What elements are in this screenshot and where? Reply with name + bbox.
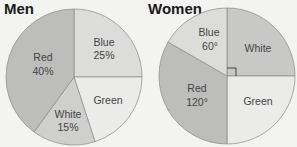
men-label-red-name: Red [33, 51, 52, 63]
men-label-white-name: White [55, 108, 82, 120]
women-label-green-name: Green [243, 95, 272, 107]
women-label-blue-name: Blue [198, 26, 219, 38]
pie-charts: Blue 25% Green White 15% Red 40% Blue 60… [0, 0, 297, 147]
women-label-red-name: Red [187, 82, 206, 94]
men-label-white-value: 15% [57, 121, 78, 133]
men-label-red-value: 40% [32, 65, 53, 77]
women-label-white-name: White [245, 42, 272, 54]
men-label-blue-name: Blue [93, 36, 114, 48]
women-slice-green [227, 76, 295, 144]
women-pie-chart [159, 8, 295, 144]
women-label-blue-value: 60° [202, 40, 218, 52]
men-label-green-name: Green [93, 94, 122, 106]
women-label-red-value: 120° [186, 96, 208, 108]
men-label-blue-value: 25% [93, 49, 114, 61]
